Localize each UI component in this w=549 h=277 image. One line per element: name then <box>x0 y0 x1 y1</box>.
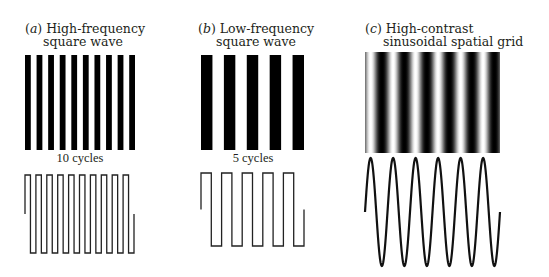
graphics-layer <box>0 0 549 277</box>
black-bar <box>60 55 66 150</box>
panel-c-sinusoidal-grating <box>365 52 500 153</box>
black-bar <box>247 55 258 150</box>
black-bar <box>83 55 89 150</box>
panel-b-square-bars <box>201 55 304 150</box>
black-bar <box>270 55 281 150</box>
black-bar <box>129 55 135 150</box>
black-bar <box>48 55 54 150</box>
black-bar <box>25 55 31 150</box>
black-bar <box>106 55 112 150</box>
panel-a-square-bars <box>25 55 135 150</box>
black-bar <box>201 55 212 150</box>
panel-b-square-waveform <box>201 173 304 246</box>
black-bar <box>224 55 235 150</box>
panel-a-square-waveform <box>25 175 134 253</box>
spatial-frequency-figure: (a) High-frequency square wave (b) Low-f… <box>0 0 549 277</box>
black-bar <box>94 55 100 150</box>
black-bar <box>118 55 124 150</box>
black-bar <box>293 55 304 150</box>
panel-c-sine-waveform <box>365 158 500 266</box>
black-bar <box>71 55 77 150</box>
black-bar <box>37 55 43 150</box>
